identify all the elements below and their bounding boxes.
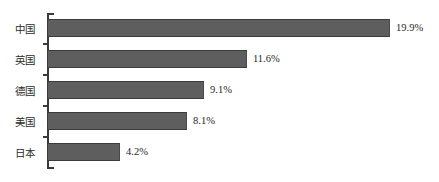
bar-0[interactable] xyxy=(48,19,390,37)
axis-tick-1 xyxy=(43,43,48,45)
y-axis-top-cap xyxy=(47,13,54,15)
axis-tick-4 xyxy=(43,136,48,138)
bar-value-4: 4.2% xyxy=(126,145,148,159)
y-axis-bottom-cap xyxy=(47,167,54,169)
category-label-4: 日本 xyxy=(6,147,44,159)
bar-row: 19.9% xyxy=(48,19,439,37)
bar-value-2: 9.1% xyxy=(210,83,232,97)
bar-value-3: 8.1% xyxy=(193,114,215,128)
bar-row: 9.1% xyxy=(48,81,439,99)
bar-value-0: 19.9% xyxy=(396,21,423,35)
bar-row: 4.2% xyxy=(48,143,439,161)
bar-row: 11.6% xyxy=(48,50,439,68)
bar-2[interactable] xyxy=(48,81,204,99)
bar-1[interactable] xyxy=(48,50,247,68)
bar-value-1: 11.6% xyxy=(253,52,280,66)
axis-tick-2 xyxy=(43,74,48,76)
bar-row: 8.1% xyxy=(48,112,439,130)
axis-tick-3 xyxy=(43,105,48,107)
category-label-1: 英国 xyxy=(6,54,44,66)
category-label-0: 中国 xyxy=(6,23,44,35)
bar-chart: 中国 英国 德国 美国 日本 19.9% 11.6% 9.1% 8.1% 4.2… xyxy=(0,0,439,182)
bar-4[interactable] xyxy=(48,143,120,161)
category-label-3: 美国 xyxy=(6,116,44,128)
bar-3[interactable] xyxy=(48,112,187,130)
category-label-2: 德国 xyxy=(6,85,44,97)
